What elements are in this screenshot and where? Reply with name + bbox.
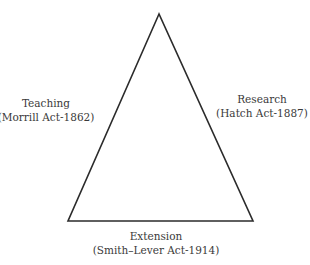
triangle-graphic (0, 0, 310, 265)
teaching-label: Teaching (Morrill Act-1862) (0, 96, 94, 124)
extension-subtitle: (Smith–Lever Act-1914) (93, 243, 220, 257)
land-grant-mission-diagram: Teaching (Morrill Act-1862) Research (Ha… (0, 0, 310, 265)
teaching-title: Teaching (0, 96, 94, 110)
extension-label: Extension (Smith–Lever Act-1914) (93, 229, 220, 257)
extension-title: Extension (93, 229, 220, 243)
research-label: Research (Hatch Act-1887) (216, 92, 308, 120)
teaching-subtitle: (Morrill Act-1862) (0, 110, 94, 124)
research-title: Research (216, 92, 308, 106)
research-subtitle: (Hatch Act-1887) (216, 106, 308, 120)
